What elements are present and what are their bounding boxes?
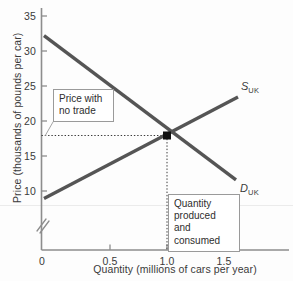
supply-curve-label-subscript: UK <box>248 86 259 95</box>
annotation-quantity-produced-and-consumed: Quantity produced and consumed <box>168 194 240 252</box>
supply-demand-chart-figure: 35 30 25 20 15 10 0 0.5 1.0 1.5 Price (t… <box>0 0 293 281</box>
annotation-quantity-line-1: Quantity <box>174 198 234 210</box>
annotation-quantity-line-3: consumed <box>174 235 234 247</box>
annotation-quantity-line-2: produced and <box>174 210 234 234</box>
demand-curve-label-letter: D <box>240 182 248 194</box>
equilibrium-point-marker <box>163 132 171 140</box>
y-tick-label-35: 35 <box>14 10 36 22</box>
demand-curve-label: DUK <box>240 182 259 197</box>
chart-plot-area <box>0 0 293 281</box>
annotation-price-with-no-trade: Price with no trade <box>53 89 114 122</box>
y-axis-ticks <box>42 16 48 191</box>
x-tick-label-0: 0 <box>27 255 57 267</box>
annotation-price-line-1: Price with <box>59 93 108 105</box>
supply-curve-label: SUK <box>241 80 259 95</box>
y-axis-title: Price (thousands of pounds per car) <box>11 33 23 203</box>
x-axis-title: Quantity (millions of cars per year) <box>60 263 290 275</box>
annotation-price-line-2: no trade <box>59 105 108 117</box>
y-axis-break-icon <box>37 219 49 233</box>
demand-curve-label-subscript: UK <box>248 188 259 197</box>
